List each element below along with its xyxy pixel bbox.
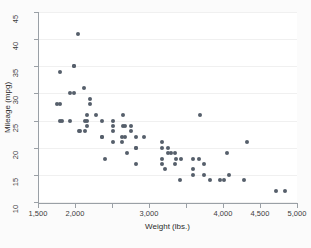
gridline [38, 12, 297, 13]
data-point [85, 119, 89, 123]
data-point [191, 173, 195, 177]
data-point [166, 146, 170, 150]
data-point [134, 146, 138, 150]
data-point [72, 64, 76, 68]
data-point [208, 178, 212, 182]
data-point [82, 86, 86, 90]
data-point [72, 91, 76, 95]
data-point [100, 135, 104, 139]
gridline [38, 121, 297, 122]
data-point [160, 140, 164, 144]
data-point [58, 102, 62, 106]
data-point [202, 173, 206, 177]
x-axis-tick [186, 204, 187, 208]
data-point [129, 129, 133, 133]
data-point [134, 162, 138, 166]
x-axis-tick-label: 2,000 [53, 209, 97, 218]
gridline [38, 175, 297, 176]
data-point [103, 157, 107, 161]
data-point [85, 113, 89, 117]
scatter-chart-figure: 1015202530354045 1,5002,0003,0004,0004,5… [0, 0, 311, 248]
data-point [202, 162, 206, 166]
x-axis-title: Weight (lbs.) [38, 222, 297, 231]
x-axis-tick-label: 5,000 [275, 209, 311, 218]
x-axis-tick [223, 204, 224, 208]
data-point [191, 167, 195, 171]
data-point [274, 189, 278, 193]
data-point [191, 157, 195, 161]
data-point [160, 162, 164, 166]
data-point [198, 113, 202, 117]
data-point [111, 119, 115, 123]
x-axis-tick [297, 204, 298, 208]
y-axis-tick [34, 93, 38, 94]
data-point [76, 32, 80, 36]
data-point [120, 140, 124, 144]
data-point [88, 97, 92, 101]
y-axis-tick [34, 148, 38, 149]
gridline [38, 66, 297, 67]
data-point [94, 113, 98, 117]
data-point [179, 157, 183, 161]
y-axis-tick [34, 66, 38, 67]
y-axis-tick [34, 39, 38, 40]
data-point [245, 140, 249, 144]
data-point [111, 140, 115, 144]
data-point [173, 151, 177, 155]
data-point [123, 135, 127, 139]
y-axis-title: Mileage (mpg) [2, 12, 14, 202]
data-point [142, 135, 146, 139]
x-axis-tick [260, 204, 261, 208]
data-point [123, 124, 127, 128]
data-point [283, 189, 287, 193]
y-axis-tick [34, 121, 38, 122]
y-axis-tick [34, 202, 38, 203]
gridline [38, 93, 297, 94]
data-point [163, 167, 167, 171]
y-axis-tick [34, 175, 38, 176]
data-point [121, 113, 125, 117]
data-point [111, 124, 115, 128]
data-point [125, 151, 129, 155]
data-point [129, 124, 133, 128]
x-axis-tick [112, 204, 113, 208]
data-point [178, 178, 182, 182]
data-point [100, 119, 104, 123]
x-axis-tick [149, 204, 150, 208]
plot-area [38, 12, 297, 202]
x-axis-line [38, 203, 298, 204]
x-axis-tick [75, 204, 76, 208]
data-point [58, 70, 62, 74]
data-point [85, 124, 89, 128]
data-point [222, 178, 226, 182]
x-axis-tick-label: 3,000 [127, 209, 171, 218]
data-point [160, 157, 164, 161]
data-point [225, 151, 229, 155]
data-point [88, 102, 92, 106]
data-point [197, 157, 201, 161]
data-point [169, 151, 173, 155]
data-point [227, 173, 231, 177]
data-point [68, 119, 72, 123]
gridline [38, 39, 297, 40]
data-point [242, 178, 246, 182]
y-axis-line [38, 12, 39, 203]
data-point [111, 129, 115, 133]
data-point [83, 129, 87, 133]
data-point [160, 146, 164, 150]
y-axis-title-text: Mileage (mpg) [4, 81, 13, 132]
x-axis-tick [38, 204, 39, 208]
data-point [78, 129, 82, 133]
data-point [174, 157, 178, 161]
data-point [60, 119, 64, 123]
data-point [173, 162, 177, 166]
data-point [134, 135, 138, 139]
y-axis-tick [34, 12, 38, 13]
